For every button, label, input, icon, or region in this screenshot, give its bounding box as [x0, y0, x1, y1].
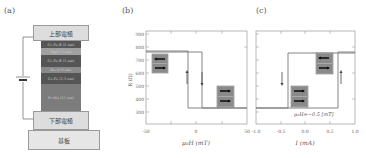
svg-text:μ₀H (mT): μ₀H (mT)	[182, 139, 210, 147]
svg-text:-0.5: -0.5	[277, 129, 286, 134]
svg-text:0.0: 0.0	[301, 129, 308, 134]
svg-text:700: 700	[135, 58, 144, 63]
svg-text:300: 300	[135, 110, 144, 115]
svg-text:900: 900	[135, 32, 144, 37]
antiparallel-state-icon	[316, 53, 333, 74]
field-annotation: μ₀H=−0.5 [mT]	[294, 111, 334, 117]
svg-text:0.5: 0.5	[326, 129, 333, 134]
svg-text:R (Ω): R (Ω)	[127, 73, 133, 86]
svg-text:500: 500	[135, 84, 144, 89]
antiparallel-state-icon	[152, 54, 168, 73]
svg-text:400: 400	[135, 97, 144, 102]
svg-text:1.0: 1.0	[351, 129, 358, 134]
parallel-state-icon	[291, 86, 308, 107]
svg-text:800: 800	[135, 45, 144, 50]
svg-text:-1.0: -1.0	[252, 129, 261, 134]
svg-text:-50: -50	[142, 129, 149, 134]
parallel-state-icon	[217, 86, 234, 107]
svg-text:0: 0	[195, 129, 198, 134]
svg-text:I (mA): I (mA)	[295, 139, 316, 146]
svg-text:600: 600	[135, 71, 144, 76]
chart-b: 900800700 600500400300 -50050 μ₀H (mT) R…	[120, 0, 250, 158]
circuit-wire	[0, 0, 120, 158]
chart-c: -1.0-0.50.0 0.51.0 I (mA)	[245, 0, 366, 158]
